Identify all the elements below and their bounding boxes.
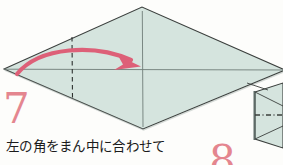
step-number: 7 [3,88,30,130]
next-step-number: 8 [209,140,236,165]
step-caption: 左の角をまん中に合わせて [6,137,166,155]
origami-instruction-page: 7 左の角をまん中に合わせて 8 [0,0,283,165]
next-panel-upper-guide [247,83,268,90]
